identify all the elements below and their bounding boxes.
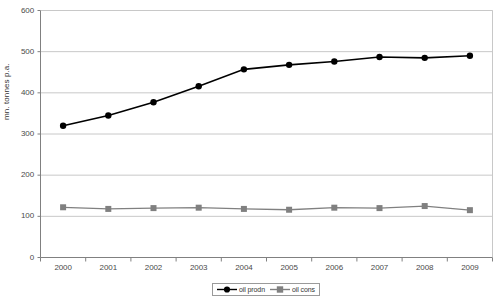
y-tick-label: 0 [8,253,34,262]
x-tick-label: 2002 [134,263,174,272]
x-tick-marks [41,258,493,262]
y-tick-label: 200 [8,170,34,179]
y-axis-title: mn. tonnes p.a. [2,20,11,120]
plot-area [0,0,503,307]
y-tick-label: 300 [8,129,34,138]
y-tick-label: 500 [8,47,34,56]
x-tick-label: 2000 [43,263,83,272]
chart-legend: oil prodn oil cons [212,283,320,296]
y-tick-label: 600 [8,6,34,15]
y-tick-label: 100 [8,211,34,220]
x-tick-label: 2008 [405,263,445,272]
legend-item-oil-cons[interactable]: oil cons [270,285,315,294]
x-tick-label: 2001 [88,263,128,272]
legend-marker-square-icon [270,285,290,294]
series-layer [60,53,473,214]
legend-label-oil-prodn: oil prodn [239,286,265,293]
y-tick-label: 400 [8,88,34,97]
x-tick-label: 2006 [314,263,354,272]
x-tick-label: 2005 [269,263,309,272]
line-chart: mn. tonnes p.a. 0100200300400500600 2000… [0,0,503,307]
legend-item-oil-prodn[interactable]: oil prodn [217,285,265,294]
x-tick-label: 2004 [224,263,264,272]
x-tick-label: 2003 [179,263,219,272]
x-tick-label: 2007 [360,263,400,272]
legend-marker-circle-icon [217,285,237,294]
x-tick-label: 2009 [450,263,490,272]
legend-label-oil-cons: oil cons [292,286,315,293]
